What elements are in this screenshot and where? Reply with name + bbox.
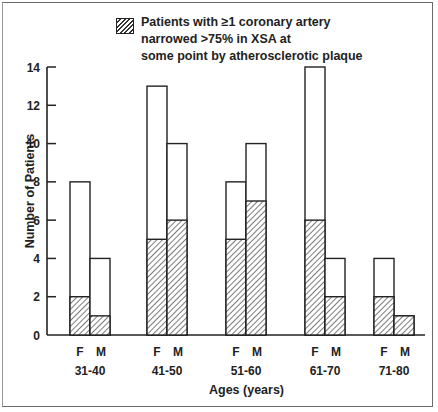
bar-hatched-f — [70, 297, 90, 335]
age-group-label: 31-40 — [75, 364, 106, 378]
age-group-label: 61-70 — [310, 364, 341, 378]
bar-hatched-m — [90, 316, 110, 335]
age-group-label: 51-60 — [231, 364, 262, 378]
bar-hatched-m — [394, 316, 414, 335]
y-tick-label: 0 — [33, 329, 40, 343]
sex-label: F — [380, 345, 387, 359]
bar-hatched-m — [325, 297, 345, 335]
sex-label: M — [400, 345, 410, 359]
y-tick-label: 4 — [33, 252, 40, 266]
age-group-label: 41-50 — [152, 364, 183, 378]
bar-hatched-f — [147, 239, 167, 335]
bar-hatched-f — [226, 239, 246, 335]
bars — [70, 67, 414, 335]
sex-label: M — [173, 345, 183, 359]
bar-hatched-m — [167, 220, 187, 335]
y-tick-label: 10 — [27, 137, 41, 151]
y-tick-label: 8 — [33, 175, 40, 189]
sex-label: M — [331, 345, 341, 359]
sex-label: F — [232, 345, 239, 359]
y-tick-label: 14 — [27, 61, 41, 75]
bar-hatched-f — [374, 297, 394, 335]
y-tick-label: 12 — [27, 99, 41, 113]
age-group-label: 71-80 — [379, 364, 410, 378]
sex-label: M — [252, 345, 262, 359]
bar-hatched-f — [305, 220, 325, 335]
sex-label: F — [76, 345, 83, 359]
bar-hatched-m — [246, 201, 266, 335]
sex-label: M — [96, 345, 106, 359]
y-tick-label: 2 — [33, 290, 40, 304]
sex-label: F — [153, 345, 160, 359]
sex-label: F — [311, 345, 318, 359]
y-tick-label: 6 — [33, 214, 40, 228]
bar-chart: 02468101214FM31-40FM41-50FM51-60FM61-70F… — [0, 0, 438, 412]
